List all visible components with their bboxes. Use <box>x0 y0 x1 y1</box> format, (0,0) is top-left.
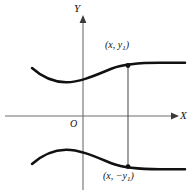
upper-curve <box>32 63 185 83</box>
upper-point-marker <box>126 63 131 68</box>
lower-curve <box>32 150 185 170</box>
lower-point-label: (x, −y1) <box>103 171 134 183</box>
x-axis-arrowhead <box>171 113 179 120</box>
y-axis-label: Y <box>74 3 80 14</box>
figure-canvas <box>0 0 193 193</box>
y-axis-arrowhead <box>80 15 87 23</box>
upper-point-label: (x, y1) <box>105 40 129 52</box>
origin-label: O <box>70 119 77 129</box>
lower-point-marker <box>126 164 131 169</box>
x-axis <box>5 113 179 120</box>
upper-point-label-suffix: ) <box>126 39 129 50</box>
lower-point-label-suffix: ) <box>130 170 133 181</box>
lower-point-label-prefix: (x, −y <box>103 170 127 181</box>
x-axis-label: X <box>180 110 187 121</box>
symmetry-figure: Y X O (x, y1) (x, −y1) <box>0 0 193 193</box>
y-axis <box>80 15 87 190</box>
upper-point-label-prefix: (x, y <box>105 39 122 50</box>
